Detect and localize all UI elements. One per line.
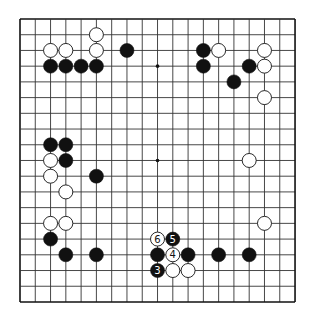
black-stone — [74, 59, 88, 73]
white-stone — [89, 28, 103, 42]
white-stone — [44, 153, 58, 167]
black-stone — [89, 169, 103, 183]
white-stone: 4 — [166, 248, 180, 262]
white-stone — [44, 169, 58, 183]
white-stone — [257, 91, 271, 105]
black-stone — [59, 138, 73, 152]
move-number-label: 6 — [154, 234, 160, 245]
black-stone — [227, 75, 241, 89]
star-point — [156, 159, 160, 163]
black-stone — [196, 43, 210, 57]
white-stone — [242, 153, 256, 167]
white-stone: 6 — [151, 232, 165, 246]
white-stone — [181, 264, 195, 278]
black-stone — [59, 153, 73, 167]
white-stone — [212, 43, 226, 57]
black-stone — [44, 59, 58, 73]
move-number-label: 3 — [154, 265, 160, 276]
white-stone — [166, 264, 180, 278]
white-stone — [44, 43, 58, 57]
black-stone — [242, 248, 256, 262]
black-stone: 5 — [166, 232, 180, 246]
black-stone — [242, 59, 256, 73]
black-stone — [59, 59, 73, 73]
black-stone — [212, 248, 226, 262]
black-stone — [151, 248, 165, 262]
white-stone — [59, 216, 73, 230]
black-stone: 3 — [151, 264, 165, 278]
white-stone — [59, 185, 73, 199]
white-stone — [257, 43, 271, 57]
black-stone — [89, 59, 103, 73]
white-stone — [44, 216, 58, 230]
black-stone — [89, 248, 103, 262]
move-number-label: 4 — [170, 249, 176, 260]
white-stone — [59, 43, 73, 57]
white-stone — [89, 43, 103, 57]
white-stone — [257, 59, 271, 73]
white-stone — [257, 216, 271, 230]
black-stone — [44, 232, 58, 246]
star-point — [156, 64, 160, 68]
black-stone — [44, 138, 58, 152]
black-stone — [59, 248, 73, 262]
black-stone — [120, 43, 134, 57]
move-number-label: 5 — [170, 234, 176, 245]
go-board: 6543 — [0, 0, 312, 324]
black-stone — [181, 248, 195, 262]
black-stone — [196, 59, 210, 73]
